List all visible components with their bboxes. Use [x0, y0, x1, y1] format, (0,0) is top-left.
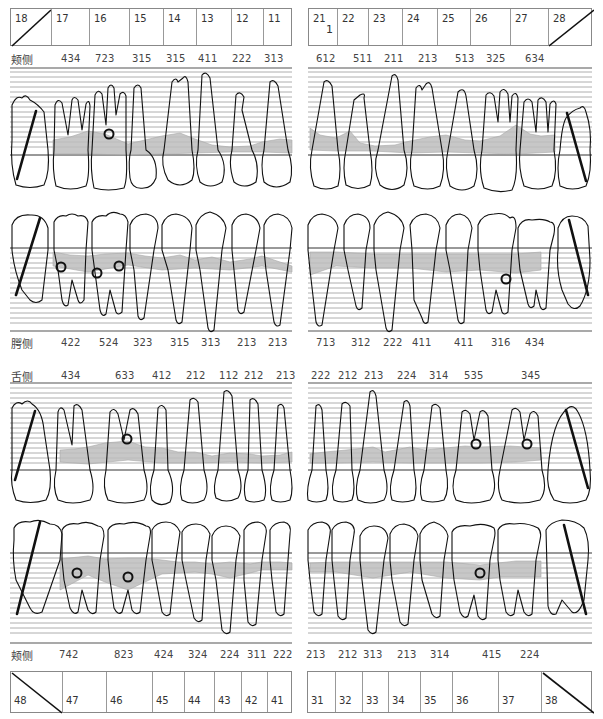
tooth-outlines	[12, 73, 591, 634]
pocket-depth-bands	[53, 125, 555, 590]
furcation-circle-26-palatal	[502, 275, 511, 284]
missing-tooth-slashes	[15, 111, 588, 614]
furcation-marks	[57, 130, 532, 582]
periodontal-tooth-diagram	[0, 0, 603, 719]
